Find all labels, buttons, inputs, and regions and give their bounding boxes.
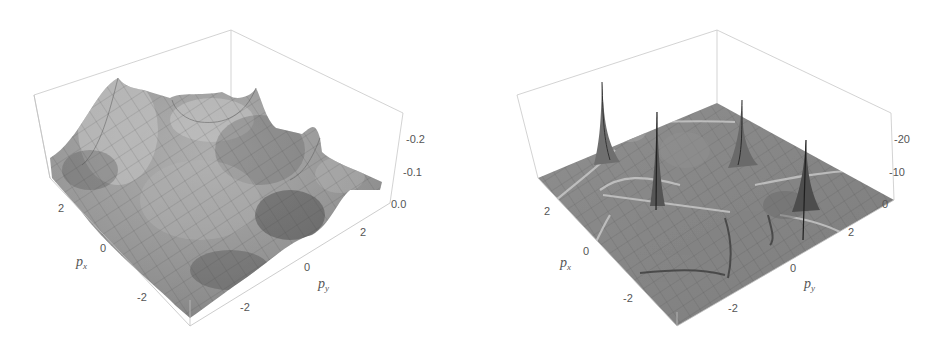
z-tick-label: -0.2 bbox=[406, 134, 425, 145]
x-tick-label: 2 bbox=[58, 203, 64, 214]
surface-plot-right: -20 -10 0 2 0 -2 -2 0 2 px py bbox=[470, 0, 943, 345]
surface-plot-left: -0.2 -0.1 0.0 2 0 -2 -2 0 2 px py bbox=[0, 0, 470, 345]
x-tick-label: 0 bbox=[100, 243, 106, 254]
surface-plot-right-graphic bbox=[470, 0, 943, 345]
y-tick-label: 0 bbox=[304, 262, 310, 273]
x-tick-label: 2 bbox=[544, 206, 550, 217]
y-axis-label: py bbox=[318, 277, 329, 293]
z-tick-label: 0.0 bbox=[391, 199, 406, 210]
surface-mesh bbox=[470, 0, 943, 345]
z-tick-label: -20 bbox=[894, 134, 910, 145]
z-tick-label: -0.1 bbox=[403, 167, 422, 178]
y-tick-label: 2 bbox=[360, 227, 366, 238]
y-tick-label: 0 bbox=[790, 263, 796, 274]
y-tick-label: 2 bbox=[848, 227, 854, 238]
z-tick-label: 0 bbox=[882, 199, 888, 210]
y-axis-label: py bbox=[804, 277, 815, 293]
surface-plot-left-graphic bbox=[0, 0, 470, 345]
z-tick-label: -10 bbox=[889, 167, 905, 178]
surface-mesh bbox=[0, 0, 470, 345]
x-axis-label: px bbox=[76, 255, 87, 271]
x-tick-label: -2 bbox=[623, 293, 633, 304]
x-tick-label: -2 bbox=[137, 292, 147, 303]
x-tick-label: 0 bbox=[583, 246, 589, 257]
y-tick-label: -2 bbox=[728, 303, 738, 314]
y-tick-label: -2 bbox=[240, 302, 250, 313]
x-axis-label: px bbox=[560, 256, 571, 272]
